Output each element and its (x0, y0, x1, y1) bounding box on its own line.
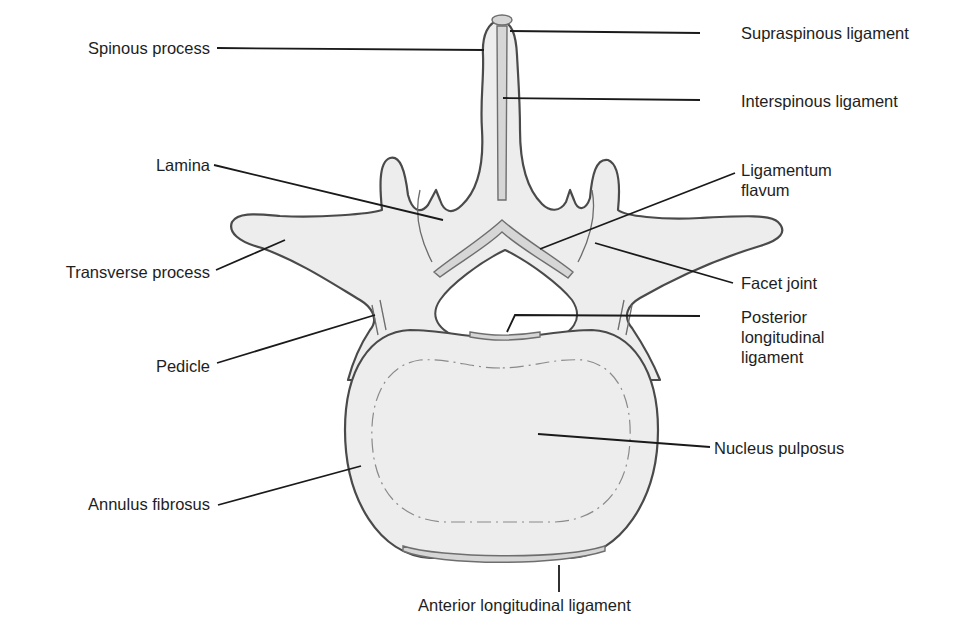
label-ligamentum-flavum-2: flavum (741, 180, 790, 200)
label-posterior-longitudinal-ligament-1: Posterior (741, 307, 807, 327)
label-facet-joint: Facet joint (741, 273, 817, 293)
supraspinous-ligament-shape (492, 15, 512, 25)
label-transverse-process: Transverse process (66, 262, 210, 282)
label-ligamentum-flavum-1: Ligamentum (741, 160, 832, 180)
label-lamina: Lamina (156, 155, 210, 175)
intervertebral-disc (345, 330, 658, 558)
label-nucleus-pulposus: Nucleus pulposus (714, 438, 844, 458)
label-anterior-longitudinal-ligament: Anterior longitudinal ligament (418, 595, 631, 615)
label-pedicle: Pedicle (156, 356, 210, 376)
label-posterior-longitudinal-ligament-3: ligament (741, 347, 803, 367)
label-posterior-longitudinal-ligament-2: longitudinal (741, 327, 824, 347)
label-annulus-fibrosus: Annulus fibrosus (88, 494, 210, 514)
label-interspinous-ligament: Interspinous ligament (741, 91, 898, 111)
label-spinous-process: Spinous process (88, 38, 210, 58)
interspinous-ligament-shape (497, 26, 507, 200)
label-supraspinous-ligament: Supraspinous ligament (741, 23, 909, 43)
